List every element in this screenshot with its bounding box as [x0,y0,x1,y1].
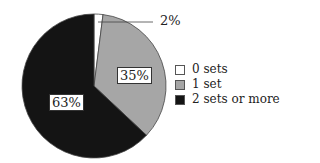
legend-swatch [175,65,185,75]
slice-label-1-set: 35% [117,67,152,84]
legend-item-0-sets: 0 sets [175,62,280,77]
legend: 0 sets 1 set 2 sets or more [175,62,280,107]
legend-item-1-set: 1 set [175,77,280,92]
slice-label-2-sets: 63% [49,94,84,111]
legend-item-2-sets: 2 sets or more [175,92,280,107]
slice-label-0-sets: 2% [160,13,181,28]
legend-swatch [175,80,185,90]
legend-swatch [175,95,185,105]
